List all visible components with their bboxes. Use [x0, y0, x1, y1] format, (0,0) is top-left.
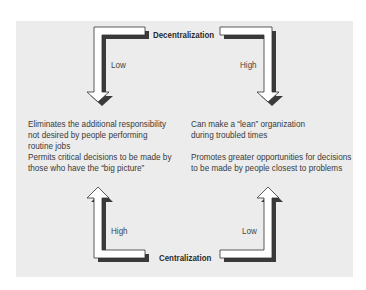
decentralization-low-label: Low [111, 59, 126, 70]
centralization-high-label: High [111, 225, 128, 236]
decentralization-label: Decentralization [153, 30, 214, 40]
decentralization-high-label: High [240, 59, 257, 70]
right-upper-description: Can make a “lean” organization during tr… [191, 118, 305, 140]
right-lower-description: Promotes greater opportunities for decis… [191, 151, 351, 173]
centralization-low-label: Low [242, 225, 257, 236]
left-upper-description: Eliminates the additional responsibility… [28, 118, 166, 151]
centralization-label: Centralization [159, 253, 211, 263]
left-lower-description: Permits critical decisions to be made by… [28, 151, 171, 173]
